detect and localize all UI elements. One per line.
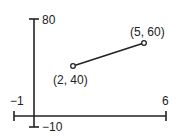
point-label-2-40: (2, 40) (53, 73, 88, 87)
point-2-40 (71, 64, 76, 69)
x-max-label: 6 (162, 94, 169, 108)
chart: 80 −10 −1 6 (2, 40) (5, 60) (0, 0, 177, 137)
point-5-60 (142, 41, 147, 46)
y-max-label: 80 (42, 13, 56, 27)
y-min-label: −10 (42, 120, 63, 134)
point-label-5-60: (5, 60) (130, 25, 165, 39)
line-segment (73, 43, 144, 66)
x-min-label: −1 (10, 94, 24, 108)
